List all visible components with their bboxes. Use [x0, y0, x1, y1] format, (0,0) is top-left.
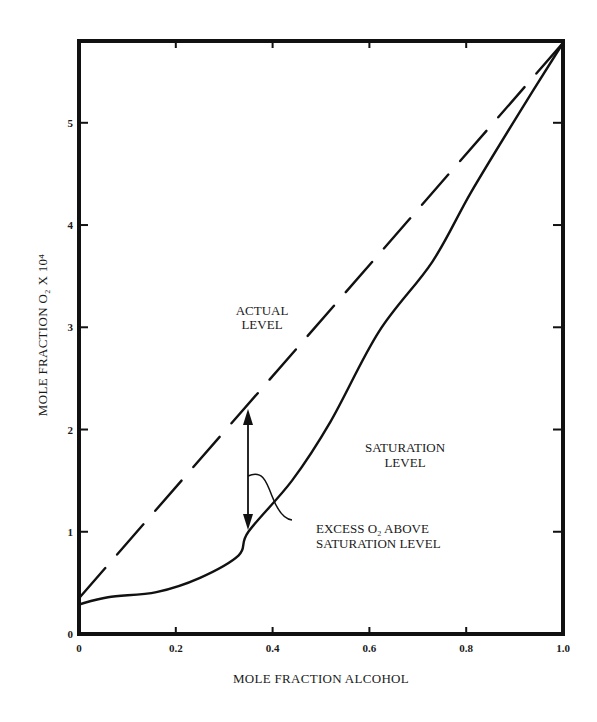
excess-double-arrow-icon	[243, 409, 253, 530]
x-tick-label: 0.2	[169, 642, 183, 654]
x-axis-title: MOLE FRACTION ALCOHOL	[233, 671, 409, 686]
y-tick-label: 3	[68, 321, 74, 333]
tick-labels: 00.20.40.60.81.0012345	[68, 117, 571, 654]
x-tick-label: 0.4	[266, 642, 280, 654]
y-axis-title: MOLE FRACTION O₂ X 10⁴	[35, 254, 50, 416]
x-tick-label: 0.8	[459, 642, 473, 654]
excess-callout-line	[248, 474, 292, 520]
y-tick-label: 1	[68, 526, 74, 538]
x-tick-label: 0.6	[363, 642, 377, 654]
y-tick-label: 4	[68, 219, 74, 231]
saturation-level-label: SATURATION	[365, 440, 446, 455]
x-tick-label: 0	[76, 642, 82, 654]
actual-level-label: ACTUAL	[236, 303, 289, 318]
y-tick-label: 0	[68, 628, 74, 640]
x-tick-label: 1.0	[556, 642, 570, 654]
y-tick-label: 5	[68, 117, 74, 129]
excess-o2-label: EXCESS O₂ ABOVE	[316, 521, 429, 536]
actual-level-line	[79, 43, 563, 598]
excess-o2-label-2: SATURATION LEVEL	[316, 536, 441, 551]
actual-level-label-2: LEVEL	[241, 317, 282, 332]
chart-svg: 00.20.40.60.81.0012345 ACTUAL LEVEL SATU…	[0, 0, 597, 722]
saturation-level-label-2: LEVEL	[384, 455, 425, 470]
y-tick-label: 2	[68, 424, 74, 436]
